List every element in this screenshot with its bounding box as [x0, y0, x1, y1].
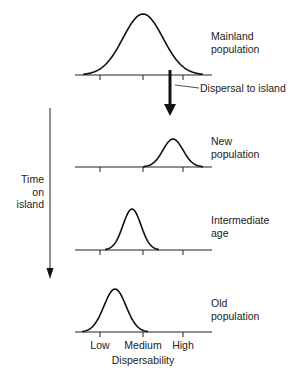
label-mainland: Mainland population — [211, 30, 259, 56]
tick-label-low: Low — [85, 339, 115, 352]
label-new: New population — [211, 135, 259, 161]
label-intermediate-line2: age — [211, 227, 269, 240]
mainland-curve — [83, 14, 203, 74]
panel-intermediate — [75, 209, 212, 255]
label-new-line2: population — [211, 148, 259, 161]
panel-old — [75, 289, 212, 337]
label-new-line1: New — [211, 135, 259, 148]
time-arrow — [47, 108, 54, 279]
tick-label-high: High — [168, 339, 198, 352]
tick-low-text: Low — [90, 339, 109, 351]
time-line2: on — [4, 186, 44, 199]
label-mainland-line1: Mainland — [211, 30, 259, 43]
intermediate-curve — [105, 209, 159, 250]
old-curve — [82, 289, 148, 332]
label-intermediate-line1: Intermediate — [211, 214, 269, 227]
dispersal-leader-line — [175, 85, 199, 88]
diagram-canvas — [0, 0, 301, 380]
time-line1: Time — [4, 173, 44, 186]
dispersal-text: Dispersal to island — [200, 82, 286, 94]
label-dispersal: Dispersal to island — [200, 82, 286, 95]
label-old: Old population — [211, 297, 259, 323]
label-intermediate: Intermediate age — [211, 214, 269, 240]
axis-title-text: Dispersability — [112, 354, 174, 366]
panel-mainland — [75, 14, 212, 80]
tick-medium-text: Medium — [124, 339, 161, 351]
panel-new — [75, 139, 212, 172]
label-time: Time on island — [4, 173, 44, 211]
dispersal-arrow — [164, 70, 199, 116]
tick-label-medium: Medium — [118, 339, 168, 352]
axis-title: Dispersability — [100, 354, 186, 367]
new-curve — [143, 139, 203, 167]
tick-high-text: High — [172, 339, 194, 351]
label-old-line1: Old — [211, 297, 259, 310]
label-old-line2: population — [211, 310, 259, 323]
time-line3: island — [4, 198, 44, 211]
label-mainland-line2: population — [211, 43, 259, 56]
